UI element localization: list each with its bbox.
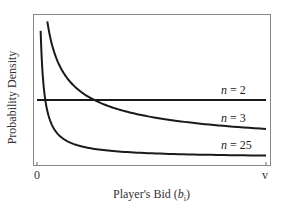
chart-canvas — [0, 0, 283, 209]
series-label-n2: n = 2 — [221, 83, 246, 98]
x-tick-label-0: 0 — [34, 168, 40, 183]
series-label-n25-rest: = 25 — [227, 138, 252, 152]
series-label-n3: n = 3 — [221, 111, 246, 126]
x-axis-label-close: ) — [186, 187, 190, 201]
series-label-n2-rest: = 2 — [227, 83, 246, 97]
y-axis-label: Probability Density — [5, 28, 20, 168]
x-axis-label-main: Player's Bid ( — [113, 187, 178, 201]
x-tick-label-v: v — [262, 168, 268, 183]
x-axis-label: Player's Bid (bi) — [33, 187, 270, 203]
series-label-n25: n = 25 — [221, 138, 252, 153]
series-label-n3-rest: = 3 — [227, 111, 246, 125]
